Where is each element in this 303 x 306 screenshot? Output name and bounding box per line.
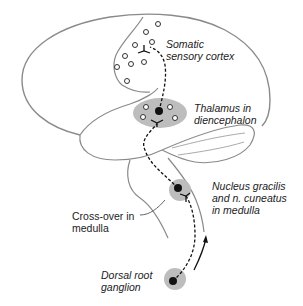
cerebellum-fold-1: [172, 133, 245, 148]
label-crossover: Cross-over in medulla: [72, 210, 134, 234]
crossover-leader-line: [140, 200, 165, 215]
label-nucleus-gracilis: Nucleus gracilis and n. cuneatus in medu…: [212, 180, 287, 216]
label-thalamus: Thalamus in diencephalon: [194, 102, 256, 126]
cortex-neurons: [115, 22, 161, 84]
brain-diagram: [0, 0, 303, 306]
temporal-lobe: [80, 135, 162, 160]
arrow-head-icon: [203, 235, 208, 243]
label-somatic-sensory-cortex: Somatic sensory cortex: [166, 38, 234, 62]
label-dorsal-root-ganglion: Dorsal root ganglion: [101, 269, 152, 293]
sensory-cortex-region: [114, 17, 150, 92]
pathway-second-order: [144, 124, 178, 188]
synapse-cortex-icon: [138, 45, 150, 53]
ascending-arrow: [194, 238, 206, 270]
cerebellum: [162, 125, 254, 163]
